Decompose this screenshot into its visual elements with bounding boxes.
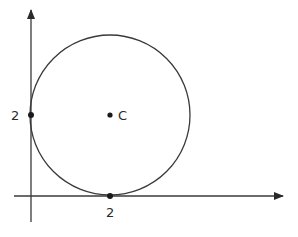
center-label: C (118, 108, 127, 123)
y-axis-tangent-point (28, 112, 34, 118)
diagram-canvas: 2 2 C (0, 0, 298, 237)
center-point (107, 112, 112, 117)
x-axis-tangent-point (107, 193, 113, 199)
y-tick-label: 2 (11, 108, 19, 123)
x-tick-label: 2 (106, 205, 114, 220)
